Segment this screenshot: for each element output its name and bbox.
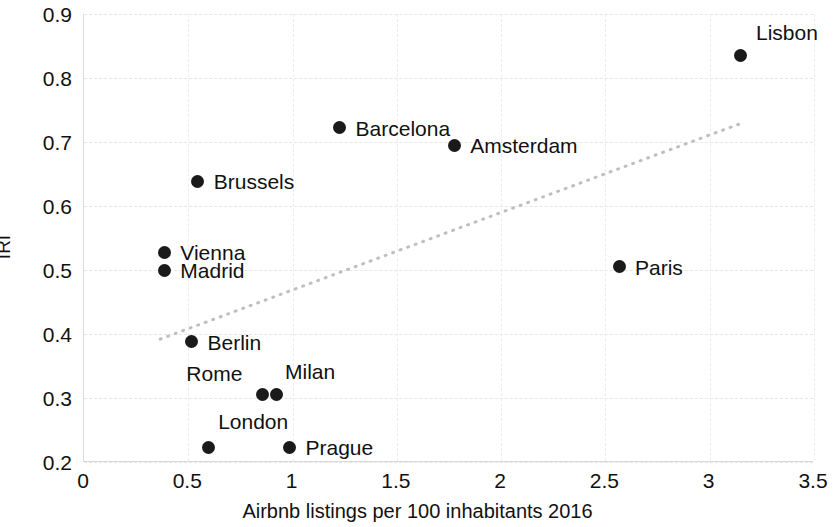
data-point-label: Amsterdam bbox=[470, 135, 577, 156]
gridline-vertical bbox=[814, 14, 815, 461]
data-point bbox=[448, 139, 461, 152]
data-point-label: London bbox=[218, 411, 288, 432]
data-point bbox=[158, 264, 171, 277]
data-point-label: Milan bbox=[285, 360, 335, 381]
data-point bbox=[734, 49, 747, 62]
gridline-horizontal bbox=[84, 78, 813, 79]
y-axis-tick-labels: 0.20.30.40.50.60.70.80.9 bbox=[0, 0, 72, 527]
gridline-vertical bbox=[188, 14, 189, 461]
plot-area bbox=[83, 14, 813, 462]
x-axis-tick-label: 2 bbox=[494, 470, 506, 491]
data-point-label: Rome bbox=[186, 362, 242, 383]
data-point-label: Brussels bbox=[214, 171, 295, 192]
gridline-horizontal bbox=[84, 462, 813, 463]
data-point-label: Lisbon bbox=[756, 21, 818, 42]
data-point-label: Barcelona bbox=[356, 117, 451, 138]
y-axis-title: IRI bbox=[0, 235, 15, 259]
data-point-label: Madrid bbox=[180, 260, 244, 281]
x-axis-tick-label: 1 bbox=[286, 470, 298, 491]
chart-figure: 0.20.30.40.50.60.70.80.9 Airbnb listings… bbox=[0, 0, 835, 527]
x-axis-tick-label: 3.5 bbox=[798, 470, 827, 491]
x-axis-tick-label: 0.5 bbox=[173, 470, 202, 491]
data-point-label: Berlin bbox=[207, 331, 261, 352]
x-axis-title: Airbnb listings per 100 inhabitants 2016 bbox=[0, 500, 835, 523]
y-axis-tick-label: 0.7 bbox=[10, 132, 72, 153]
gridline-vertical bbox=[605, 14, 606, 461]
gridline-vertical bbox=[710, 14, 711, 461]
y-axis-tick-label: 0.5 bbox=[10, 260, 72, 281]
x-axis-tick-label: 3 bbox=[703, 470, 715, 491]
data-point bbox=[613, 260, 626, 273]
y-axis-tick-label: 0.2 bbox=[10, 452, 72, 473]
gridline-horizontal bbox=[84, 14, 813, 15]
gridline-vertical bbox=[501, 14, 502, 461]
y-axis-tick-label: 0.9 bbox=[10, 4, 72, 25]
x-axis-tick-label: 2.5 bbox=[590, 470, 619, 491]
x-axis-tick-label: 0 bbox=[77, 470, 89, 491]
data-point-label: Paris bbox=[635, 256, 683, 277]
data-point bbox=[158, 246, 171, 259]
data-point bbox=[191, 175, 204, 188]
y-axis-tick-label: 0.4 bbox=[10, 324, 72, 345]
gridline-horizontal bbox=[84, 398, 813, 399]
data-point-label: Prague bbox=[305, 437, 373, 458]
y-axis-tick-label: 0.3 bbox=[10, 388, 72, 409]
gridline-vertical bbox=[293, 14, 294, 461]
data-point bbox=[202, 441, 215, 454]
y-axis-tick-label: 0.6 bbox=[10, 196, 72, 217]
data-point bbox=[283, 441, 296, 454]
gridline-horizontal bbox=[84, 206, 813, 207]
y-axis-tick-label: 0.8 bbox=[10, 68, 72, 89]
gridline-vertical bbox=[397, 14, 398, 461]
x-axis-tick-label: 1.5 bbox=[381, 470, 410, 491]
